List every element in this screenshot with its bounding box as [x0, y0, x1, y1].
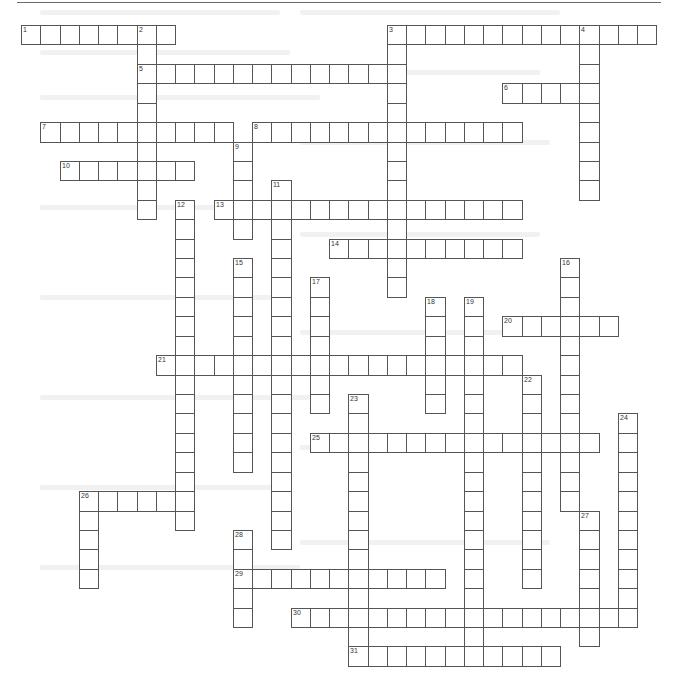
crossword-cell[interactable]	[579, 569, 600, 589]
crossword-cell[interactable]	[599, 608, 619, 628]
crossword-cell[interactable]	[348, 200, 369, 220]
crossword-cell[interactable]	[483, 608, 503, 628]
crossword-cell[interactable]	[137, 491, 157, 512]
crossword-cell[interactable]	[406, 25, 426, 45]
crossword-cell[interactable]	[522, 25, 542, 45]
crossword-cell[interactable]	[464, 452, 484, 473]
crossword-cell[interactable]	[175, 239, 195, 259]
crossword-cell[interactable]	[117, 491, 138, 512]
crossword-cell[interactable]	[387, 83, 407, 104]
crossword-cell[interactable]	[502, 239, 523, 259]
crossword-cell[interactable]	[60, 122, 80, 143]
crossword-cell[interactable]	[137, 122, 157, 143]
crossword-cell[interactable]	[271, 375, 292, 395]
crossword-cell[interactable]	[271, 219, 292, 240]
crossword-cell[interactable]	[445, 239, 465, 259]
crossword-cell[interactable]: 31	[348, 646, 369, 667]
crossword-cell[interactable]	[117, 25, 138, 45]
crossword-cell[interactable]	[175, 64, 195, 84]
crossword-cell[interactable]	[522, 530, 542, 550]
crossword-cell[interactable]	[310, 297, 330, 317]
crossword-cell[interactable]	[387, 200, 407, 220]
crossword-cell[interactable]	[579, 588, 600, 609]
crossword-cell[interactable]	[387, 277, 407, 298]
crossword-cell[interactable]	[233, 336, 253, 356]
crossword-cell[interactable]	[560, 433, 580, 453]
crossword-cell[interactable]	[579, 103, 600, 123]
crossword-cell[interactable]	[175, 375, 195, 395]
crossword-cell[interactable]	[98, 491, 118, 512]
crossword-cell[interactable]	[175, 452, 195, 473]
crossword-cell[interactable]	[348, 452, 369, 473]
crossword-cell[interactable]	[387, 433, 407, 453]
crossword-cell[interactable]	[79, 530, 99, 550]
crossword-cell[interactable]	[233, 219, 253, 240]
crossword-cell[interactable]	[271, 64, 292, 84]
crossword-cell[interactable]	[137, 103, 157, 123]
crossword-cell[interactable]	[329, 433, 349, 453]
crossword-cell[interactable]	[502, 200, 523, 220]
crossword-cell[interactable]	[425, 355, 446, 376]
crossword-cell[interactable]	[233, 394, 253, 414]
crossword-cell[interactable]	[175, 122, 195, 143]
crossword-cell[interactable]	[137, 200, 157, 220]
crossword-cell[interactable]	[98, 122, 118, 143]
crossword-cell[interactable]	[387, 161, 407, 181]
crossword-cell[interactable]	[348, 608, 369, 628]
crossword-cell[interactable]	[502, 122, 523, 143]
crossword-cell[interactable]	[291, 569, 311, 589]
crossword-cell[interactable]	[252, 355, 272, 376]
crossword-cell[interactable]	[329, 569, 349, 589]
crossword-cell[interactable]: 24	[618, 413, 638, 434]
crossword-cell[interactable]	[117, 122, 138, 143]
crossword-cell[interactable]	[348, 588, 369, 609]
crossword-cell[interactable]	[175, 219, 195, 240]
crossword-cell[interactable]	[194, 64, 215, 84]
crossword-cell[interactable]	[425, 25, 446, 45]
crossword-cell[interactable]	[579, 433, 600, 453]
crossword-cell[interactable]	[464, 239, 484, 259]
crossword-cell[interactable]	[522, 413, 542, 434]
crossword-cell[interactable]	[233, 64, 253, 84]
crossword-cell[interactable]	[329, 608, 349, 628]
crossword-cell[interactable]	[79, 511, 99, 531]
crossword-cell[interactable]	[618, 608, 638, 628]
crossword-cell[interactable]	[425, 239, 446, 259]
crossword-cell[interactable]	[175, 336, 195, 356]
crossword-cell[interactable]	[348, 472, 369, 492]
crossword-cell[interactable]	[368, 433, 388, 453]
crossword-cell[interactable]	[618, 452, 638, 473]
crossword-cell[interactable]	[464, 627, 484, 647]
crossword-cell[interactable]: 26	[79, 491, 99, 512]
crossword-cell[interactable]	[175, 355, 195, 376]
crossword-cell[interactable]	[560, 355, 580, 376]
crossword-cell[interactable]	[291, 355, 311, 376]
crossword-cell[interactable]	[464, 336, 484, 356]
crossword-cell[interactable]	[329, 200, 349, 220]
crossword-cell[interactable]	[310, 608, 330, 628]
crossword-cell[interactable]	[406, 355, 426, 376]
crossword-cell[interactable]	[348, 627, 369, 647]
crossword-cell[interactable]	[368, 200, 388, 220]
crossword-cell[interactable]	[271, 511, 292, 531]
crossword-cell[interactable]	[541, 608, 561, 628]
crossword-cell[interactable]	[483, 25, 503, 45]
crossword-cell[interactable]: 14	[329, 239, 349, 259]
crossword-cell[interactable]	[618, 511, 638, 531]
crossword-cell[interactable]: 16	[560, 258, 580, 278]
crossword-cell[interactable]	[271, 433, 292, 453]
crossword-cell[interactable]: 25	[310, 433, 330, 453]
crossword-cell[interactable]	[387, 355, 407, 376]
crossword-cell[interactable]	[579, 549, 600, 570]
crossword-cell[interactable]	[271, 394, 292, 414]
crossword-cell[interactable]	[175, 511, 195, 531]
crossword-cell[interactable]	[368, 239, 388, 259]
crossword-cell[interactable]	[560, 316, 580, 337]
crossword-cell[interactable]	[579, 161, 600, 181]
crossword-cell[interactable]	[579, 530, 600, 550]
crossword-cell[interactable]	[271, 239, 292, 259]
crossword-cell[interactable]	[60, 25, 80, 45]
crossword-cell[interactable]	[618, 433, 638, 453]
crossword-cell[interactable]	[560, 375, 580, 395]
crossword-cell[interactable]	[387, 180, 407, 201]
